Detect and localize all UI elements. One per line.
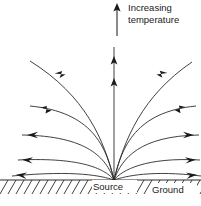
source-label: Source [93,181,123,192]
streamline-arrow-left-3 [27,132,38,138]
streamline-arrow-left-4 [22,157,33,163]
streamline-arrow-left-2 [41,106,52,114]
figure-container: Increasing temperature [0,0,201,206]
ground-label: Ground [152,184,184,195]
streamline-left-4 [18,160,114,180]
streamline-arrow-left-1 [55,71,66,78]
streamline-arrow-right-1 [157,71,168,78]
legend-label-line2: temperature [128,14,179,25]
streamline-right-5-inner [114,173,201,180]
streamline-arrow-right-3 [183,132,194,138]
legend-label-line1: Increasing [128,2,172,13]
streamline-arrow-right-4 [185,157,196,163]
thermal-plume-diagram: Increasing temperature [0,0,201,206]
streamline-left-5-inner [12,173,114,180]
legend-group: Increasing temperature [113,2,179,36]
streamlines-group [12,47,201,180]
